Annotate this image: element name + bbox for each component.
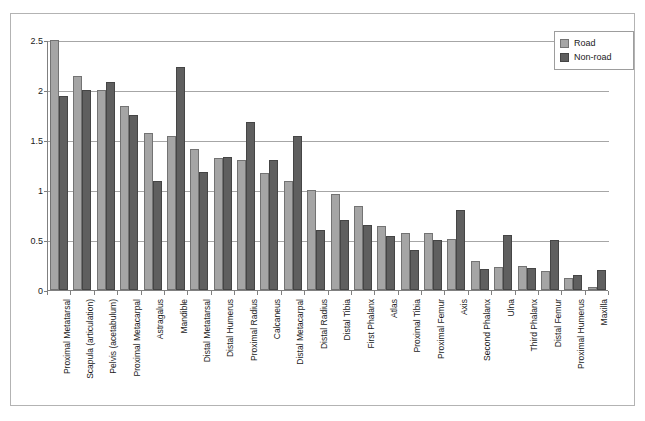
x-tick-mark bbox=[47, 291, 48, 295]
legend-swatch-non-road bbox=[560, 53, 569, 62]
bar-non-road bbox=[573, 275, 582, 290]
x-axis-label: Maxilla bbox=[600, 299, 609, 325]
bar-road bbox=[167, 136, 176, 290]
x-tick-mark bbox=[304, 291, 305, 295]
bar-non-road bbox=[293, 136, 302, 290]
bar-group bbox=[97, 40, 116, 290]
x-axis-label: Proximal Metacarpal bbox=[133, 299, 142, 376]
bar-group bbox=[50, 40, 69, 290]
bar-group bbox=[214, 40, 233, 290]
y-tick-mark bbox=[44, 41, 48, 42]
x-axis-label: Astragalus bbox=[156, 299, 165, 339]
x-axis-label: Distal Tibia bbox=[343, 299, 352, 341]
bar-road bbox=[377, 226, 386, 290]
x-axis-label: Proximal Radius bbox=[250, 299, 259, 361]
bar-group bbox=[284, 40, 303, 290]
bar-group bbox=[564, 40, 583, 290]
bar-road bbox=[447, 239, 456, 290]
x-axis-label: Proximal Metatarsal bbox=[63, 299, 72, 374]
x-tick-mark bbox=[538, 291, 539, 295]
x-tick-mark bbox=[515, 291, 516, 295]
bar-road bbox=[50, 40, 59, 290]
bar-road bbox=[214, 158, 223, 290]
x-axis-label: Proximal Humerus bbox=[577, 299, 586, 369]
x-axis-label: Distal Humerus bbox=[226, 299, 235, 357]
bar-non-road bbox=[480, 269, 489, 290]
bar-group bbox=[331, 40, 350, 290]
bar-road bbox=[401, 233, 410, 290]
bar-group bbox=[424, 40, 443, 290]
x-axis-label: First Phalanx bbox=[367, 299, 376, 349]
bar-group bbox=[401, 40, 420, 290]
bar-road bbox=[518, 266, 527, 290]
bar-non-road bbox=[246, 122, 255, 290]
bar-non-road bbox=[410, 250, 419, 290]
bar-non-road bbox=[316, 230, 325, 290]
x-axis-label: Atlas bbox=[390, 299, 399, 318]
y-tick-mark bbox=[44, 191, 48, 192]
x-tick-mark bbox=[585, 291, 586, 295]
x-tick-mark bbox=[561, 291, 562, 295]
bar-non-road bbox=[106, 82, 115, 290]
x-tick-mark bbox=[398, 291, 399, 295]
bar-road bbox=[471, 261, 480, 290]
bar-non-road bbox=[527, 268, 536, 290]
bar-road bbox=[564, 278, 573, 290]
x-axis-label: Pelvis (acetabulum) bbox=[109, 299, 118, 374]
x-axis-label: Ulna bbox=[507, 299, 516, 316]
bar-road bbox=[541, 271, 550, 290]
legend-swatch-road bbox=[560, 39, 569, 48]
bar-road bbox=[73, 76, 82, 290]
legend-item-non-road: Non-road bbox=[560, 51, 628, 64]
bar-road bbox=[284, 181, 293, 290]
bar-road bbox=[354, 206, 363, 290]
bar-road bbox=[588, 287, 597, 290]
legend-item-road: Road bbox=[560, 37, 628, 50]
x-tick-mark bbox=[211, 291, 212, 295]
x-tick-mark bbox=[491, 291, 492, 295]
bar-group bbox=[120, 40, 139, 290]
x-tick-mark bbox=[94, 291, 95, 295]
bar-non-road bbox=[129, 115, 138, 290]
x-tick-mark bbox=[421, 291, 422, 295]
bar-group bbox=[447, 40, 466, 290]
bar-non-road bbox=[363, 225, 372, 290]
x-tick-mark bbox=[374, 291, 375, 295]
x-axis-label: Proximal Tibia bbox=[413, 299, 422, 352]
chart-figure: 00.511.522.5 Road Non-road Proximal Meta… bbox=[0, 0, 645, 421]
bar-non-road bbox=[456, 210, 465, 290]
x-tick-mark bbox=[117, 291, 118, 295]
bar-group bbox=[144, 40, 163, 290]
legend-label-road: Road bbox=[574, 39, 596, 48]
x-tick-mark bbox=[468, 291, 469, 295]
x-axis-label: Axis bbox=[460, 299, 469, 315]
bar-group bbox=[190, 40, 209, 290]
bar-non-road bbox=[176, 67, 185, 290]
x-tick-mark bbox=[328, 291, 329, 295]
bar-non-road bbox=[82, 90, 91, 290]
bar-road bbox=[424, 233, 433, 290]
x-axis-label: Third Phalanx bbox=[530, 299, 539, 351]
bar-group bbox=[471, 40, 490, 290]
x-tick-mark bbox=[70, 291, 71, 295]
bar-non-road bbox=[269, 160, 278, 290]
bar-road bbox=[237, 160, 246, 290]
x-tick-mark bbox=[234, 291, 235, 295]
bar-group bbox=[588, 40, 607, 290]
bar-road bbox=[331, 194, 340, 290]
x-axis-label: Mandible bbox=[180, 299, 189, 334]
x-tick-mark bbox=[444, 291, 445, 295]
bar-non-road bbox=[340, 220, 349, 290]
bar-road bbox=[97, 90, 106, 290]
bar-non-road bbox=[550, 240, 559, 290]
y-tick-mark bbox=[44, 241, 48, 242]
y-tick-mark bbox=[44, 141, 48, 142]
x-tick-mark bbox=[351, 291, 352, 295]
x-axis-label: Scapula (articulation) bbox=[86, 299, 95, 379]
bar-road bbox=[307, 190, 316, 290]
bar-non-road bbox=[199, 172, 208, 290]
bar-road bbox=[144, 133, 153, 290]
chart-legend: Road Non-road bbox=[554, 31, 634, 70]
x-axis-label: Distal Metatarsal bbox=[203, 299, 212, 362]
x-axis-label: Distal Femur bbox=[554, 299, 563, 347]
